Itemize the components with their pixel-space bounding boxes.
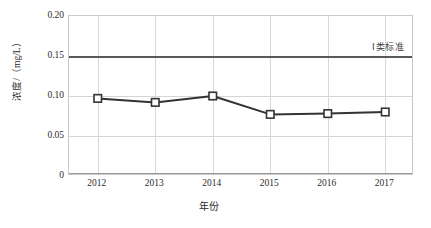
plot-area: Ⅰ类标准 [68,15,413,175]
x-tick-2017: 2017 [375,178,394,188]
y-tick-0: 0 [59,170,64,180]
y-tick-0.20: 0.20 [47,10,64,20]
x-tick-2015: 2015 [260,178,279,188]
x-tick-2012: 2012 [87,178,106,188]
x-axis-line [69,173,412,174]
x-tick-2016: 2016 [317,178,336,188]
data-point-2017 [382,108,390,116]
x-tick-2013: 2013 [145,178,164,188]
data-point-2015 [267,111,275,119]
y-tick-0.10: 0.10 [47,90,64,100]
data-series-layer [69,16,414,176]
y-axis-ticks: 0 0.05 0.10 0.15 0.20 [20,15,64,175]
data-point-2014 [209,92,217,100]
data-point-2013 [152,99,160,107]
data-point-2016 [324,110,332,118]
series-line [98,96,386,114]
y-axis-title: 浓度/（mg/L） [9,29,23,109]
x-tick-2014: 2014 [202,178,221,188]
y-tick-0.05: 0.05 [47,130,64,140]
x-axis-ticks: 2012 2013 2014 2015 2016 2017 [68,178,413,194]
line-chart: 0 0.05 0.10 0.15 0.20 浓度/（mg/L） Ⅰ类标准 201… [0,0,431,228]
data-point-2012 [94,95,102,103]
x-axis-title: 年份 [0,198,431,213]
x-axis-title-text: 年份 [199,198,219,213]
y-tick-0.15: 0.15 [47,50,64,60]
